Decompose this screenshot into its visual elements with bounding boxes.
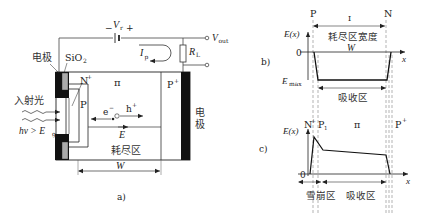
absorption-label: 吸收区 [338, 92, 368, 103]
electron-dot [112, 118, 115, 121]
p-plus-sup: + [174, 77, 179, 84]
sio2-top [62, 73, 68, 90]
battery-icon [115, 33, 119, 43]
sio2-label: SiO [65, 52, 83, 63]
sio2-sub: 2 [83, 57, 87, 64]
x-axis-label: x [401, 54, 406, 64]
p-plus-label: P [167, 79, 174, 90]
electron-label: e [103, 107, 108, 117]
top-marker: I [348, 14, 351, 23]
depletion-label: 耗尽区 [111, 145, 141, 156]
pi-marker: π [354, 119, 360, 130]
y-axis-label: E(x) [282, 126, 299, 136]
apd-diagram: − V r + V out R L I p [0, 0, 424, 213]
photon-sub: g [52, 130, 56, 138]
electrode-left-label: 电极 [32, 51, 52, 63]
avalanche-label: 雪崩区 [306, 190, 336, 201]
p-plus-sup: + [402, 116, 407, 123]
panel-c-label: c) [259, 144, 268, 154]
panel-b-label: b) [261, 57, 270, 67]
pi-region-label: π [114, 77, 121, 88]
width-label: W [347, 43, 356, 53]
x-axis-label: x [405, 176, 410, 186]
field-profile-c [310, 137, 390, 174]
vout-terminal-bottom [205, 63, 209, 67]
n-plus-sup: + [87, 73, 92, 80]
current-label: I [139, 47, 144, 58]
absorption-label: 吸收区 [346, 190, 376, 201]
zero-label: 0 [296, 48, 302, 58]
panel-a-device-structure: − V r + V out R L I p [14, 19, 229, 202]
right-electrode [181, 72, 190, 160]
emax-sub: max [289, 80, 302, 87]
hole-circle [115, 114, 119, 118]
vout-sub: out [219, 37, 229, 44]
n-marker: N [384, 8, 392, 19]
resistor-sub: L [196, 51, 200, 58]
incident-light-label: 入射光 [14, 94, 44, 106]
resistor-icon [180, 45, 186, 62]
panel-c-field-distribution: c) N + P 1 π P + E(x) 0 x 雪崩区 吸收区 [259, 116, 410, 201]
sio2-bottom [62, 142, 68, 159]
current-sub: p [145, 53, 149, 61]
photon-condition: hν > E [19, 126, 45, 136]
zero-label: 0 [300, 170, 306, 180]
width-label: W [116, 160, 126, 171]
electrode-right-label-1: 电 [195, 106, 205, 118]
panel-a-label: a) [117, 192, 126, 202]
vout-terminal-top [205, 36, 209, 40]
y-axis-label: E(x) [283, 29, 300, 39]
electrode-right-label-2: 极 [195, 118, 205, 130]
depletion-width-label: 耗尽区宽度 [328, 31, 378, 42]
electron-sup: − [109, 104, 114, 111]
p-plus-marker: P [395, 119, 402, 130]
resistor-label: R [188, 46, 195, 57]
light-wave-icon [22, 111, 60, 122]
p-marker: P [310, 8, 317, 19]
battery-sub: r [120, 24, 123, 31]
field-profile-b [314, 52, 391, 80]
p-region-label: P [80, 99, 87, 110]
emax-label: E [281, 76, 288, 86]
battery-plus: + [126, 23, 134, 33]
field-label: E [118, 129, 125, 140]
p1-sub: 1 [324, 125, 328, 131]
hole-sup: + [132, 101, 137, 108]
n-plus-sup: + [311, 117, 316, 124]
battery-minus: − [105, 23, 113, 33]
